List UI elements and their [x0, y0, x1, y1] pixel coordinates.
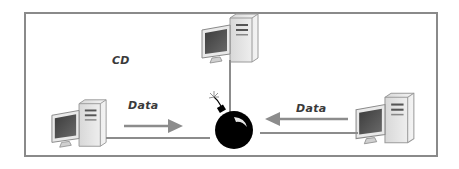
top-computer-icon	[202, 14, 258, 63]
right-arrow-icon	[124, 119, 183, 133]
left-data-label: Data	[128, 99, 158, 112]
network-diagram	[0, 0, 459, 169]
network-label: CD	[112, 54, 130, 67]
left-computer-icon	[52, 100, 106, 147]
right-computer-icon	[356, 93, 414, 144]
right-data-label: Data	[296, 102, 326, 115]
